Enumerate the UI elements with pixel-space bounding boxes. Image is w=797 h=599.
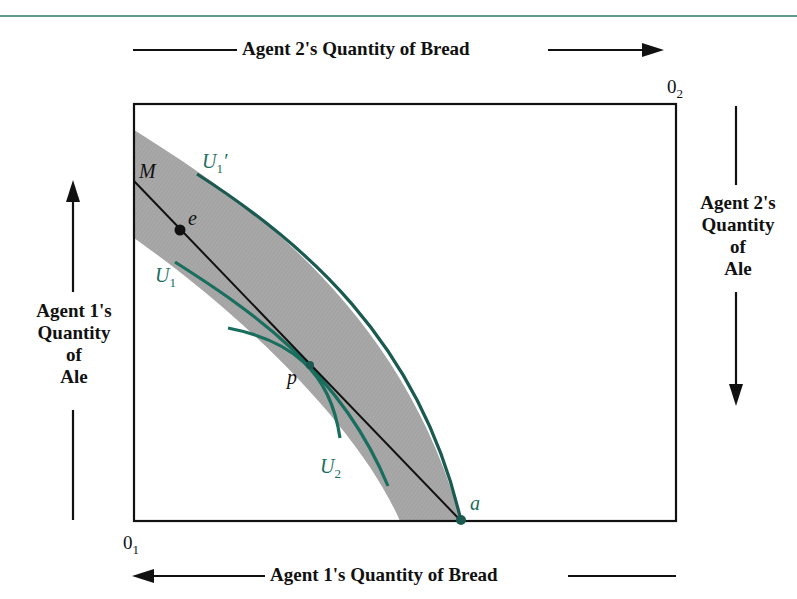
right-axis-title-line: of: [686, 236, 790, 258]
top-axis-title: Agent 2's Quantity of Bread: [242, 38, 470, 60]
origin-agent2: 02: [667, 76, 683, 102]
origin-base: 0: [667, 76, 677, 97]
origin-base: 0: [123, 532, 133, 553]
right-axis-title-line: Agent 2's: [686, 192, 790, 214]
curve-label-prime: ′: [223, 150, 227, 172]
left-axis-title-line: Ale: [22, 366, 126, 388]
origin-sub: 1: [133, 542, 140, 557]
left-axis-title-line: Quantity: [22, 322, 126, 344]
label-m: M: [139, 160, 156, 183]
right-arrow-icon: [642, 43, 664, 57]
curve-label-sub: 2: [334, 466, 341, 481]
right-axis-title-line: Quantity: [686, 214, 790, 236]
bottom-axis-title: Agent 1's Quantity of Bread: [270, 564, 498, 586]
curve-label-base: U: [155, 264, 169, 286]
label-p: p: [287, 366, 297, 389]
core-band: [134, 130, 461, 521]
label-e: e: [188, 207, 197, 230]
curve-label-sub: 1: [169, 275, 176, 290]
label-u1: U1: [155, 264, 176, 291]
left-axis-title-line: Agent 1's: [22, 300, 126, 322]
label-u1-prime: U1′: [202, 150, 227, 177]
point-e: [175, 225, 186, 236]
origin-agent1: 01: [123, 532, 139, 558]
down-arrow-icon: [729, 384, 743, 406]
curve-label-base: U: [320, 455, 334, 477]
curve-label-base: U: [202, 150, 216, 172]
left-axis-title-line: of: [22, 344, 126, 366]
right-axis-title: Agent 2's Quantity of Ale: [686, 192, 790, 280]
label-u2: U2: [320, 455, 341, 482]
left-axis-title: Agent 1's Quantity of Ale: [22, 300, 126, 388]
origin-sub: 2: [677, 86, 684, 101]
point-p: [306, 361, 314, 369]
right-axis-title-line: Ale: [686, 258, 790, 280]
label-a: a: [470, 492, 480, 515]
point-a: [456, 515, 466, 525]
